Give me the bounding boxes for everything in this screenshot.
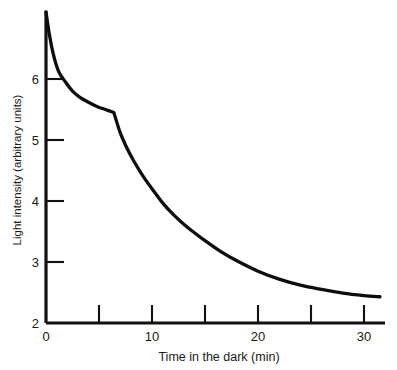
y-tick-label-3: 3	[32, 255, 39, 270]
y-tick-label-4: 4	[32, 194, 39, 209]
x-tick-label-30: 30	[357, 329, 371, 344]
x-tick-label-20: 20	[251, 329, 265, 344]
x-axis-tick-labels: 0 10 20 30	[42, 329, 371, 344]
y-tick-label-6: 6	[32, 72, 39, 87]
x-tick-label-0: 0	[42, 329, 49, 344]
data-curve-line	[46, 12, 380, 297]
y-axis-title: Light intensity (arbitrary units)	[11, 94, 23, 245]
y-tick-label-2: 2	[32, 316, 39, 331]
x-axis-ticks	[99, 305, 364, 323]
line-chart: 6 5 4 3 2 0 10 20 30 Time in the dark (m…	[0, 0, 397, 370]
x-axis-title: Time in the dark (min)	[158, 350, 279, 364]
x-tick-label-10: 10	[145, 329, 159, 344]
axes-group	[46, 11, 385, 323]
y-tick-label-5: 5	[32, 133, 39, 148]
chart-container: 6 5 4 3 2 0 10 20 30 Time in the dark (m…	[0, 0, 397, 370]
y-axis-ticks	[46, 79, 64, 262]
y-axis-tick-labels: 6 5 4 3 2	[32, 72, 39, 331]
